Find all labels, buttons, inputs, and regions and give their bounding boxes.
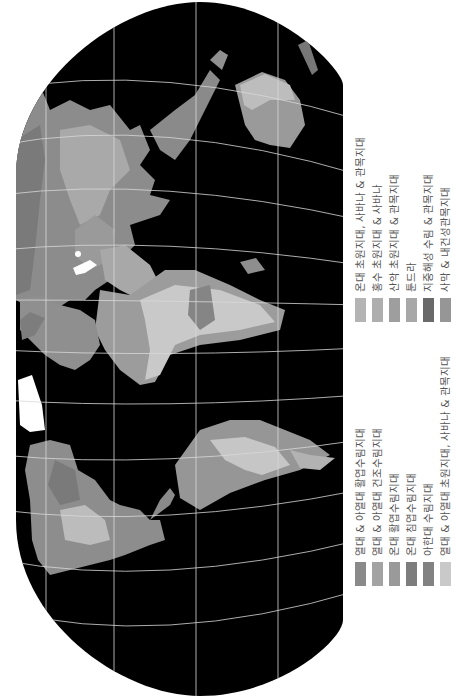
legend-swatch bbox=[389, 298, 400, 322]
legend-swatch bbox=[372, 562, 383, 586]
legend-swatch bbox=[372, 298, 383, 322]
legend-label: 온대 침엽수림지대 bbox=[405, 473, 417, 556]
legend-swatch bbox=[389, 562, 400, 586]
legend-label: 온대 초원지대, 사바나 & 관목지대 bbox=[354, 137, 366, 292]
legend-swatch bbox=[406, 562, 417, 586]
legend-swatch bbox=[440, 562, 451, 586]
legend-label: 열대 & 아열대 건조수림지대 bbox=[371, 428, 383, 556]
legend-label: 지중해성 수림 & 관목지대 bbox=[422, 174, 434, 292]
legend-swatch bbox=[440, 298, 451, 322]
legend-swatch bbox=[423, 298, 434, 322]
legend-label: 열대 & 아열대 활엽수림지대 bbox=[354, 428, 366, 556]
legend-swatch bbox=[406, 298, 417, 322]
legend-label: 사막 & 내건성관목지대 bbox=[439, 187, 451, 292]
legend-swatch bbox=[423, 562, 434, 586]
legend-swatch bbox=[355, 298, 366, 322]
legend-label: 산악 초원지대 & 관목지대 bbox=[388, 174, 400, 292]
legend-label: 열대 & 아열대 초원지대, 사바나 & 관목지대 bbox=[439, 356, 451, 556]
legend-swatch bbox=[355, 562, 366, 586]
legend-label: 온대 활엽수림지대 bbox=[388, 473, 400, 556]
legend-label: 아한대 수림지대 bbox=[422, 483, 434, 556]
ice-patch bbox=[75, 251, 81, 257]
legend-item: 열대 & 아열대 초원지대, 사바나 & 관목지대 bbox=[440, 300, 460, 560]
legend-label: 툰드라 bbox=[405, 262, 417, 292]
legend-label: 홍수 초원지대 & 사바나 bbox=[371, 184, 383, 292]
legend-item: 사막 & 내건성관목지대 bbox=[440, 40, 460, 300]
